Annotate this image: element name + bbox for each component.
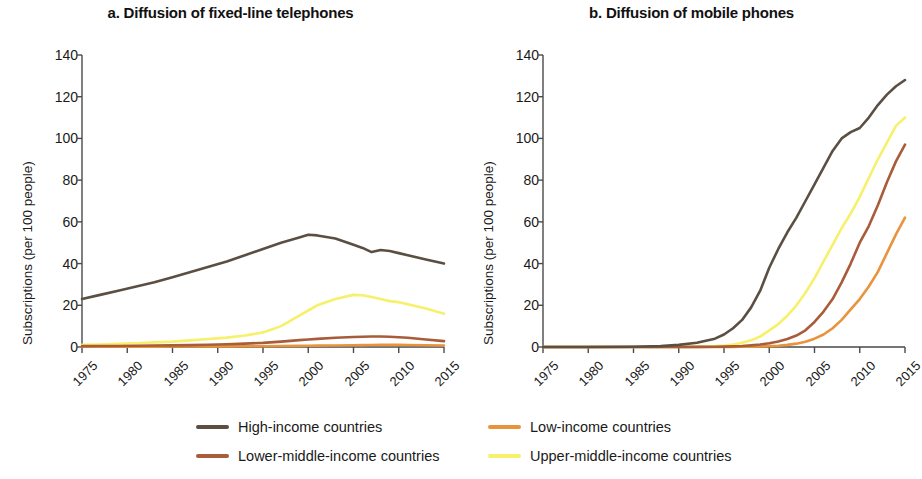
panel-b-y-ticks: 020406080100120140 (497, 55, 539, 347)
x-tick-label: 1980 (107, 358, 146, 397)
panel-a-plot-area (82, 55, 444, 347)
y-tick-label: 60 (38, 214, 78, 230)
x-tick-label: 1985 (152, 358, 191, 397)
legend-label: Lower-middle-income countries (238, 448, 439, 464)
x-tick-label: 1990 (658, 358, 697, 397)
chart-legend: High-income countriesLow-income countrie… (0, 408, 922, 479)
legend-grid: High-income countriesLow-income countrie… (196, 412, 796, 470)
y-tick-label: 80 (38, 172, 78, 188)
panel-a-y-ticks: 020406080100120140 (36, 55, 78, 347)
y-tick-label: 80 (499, 172, 539, 188)
data-line-low-income-countries (543, 218, 905, 347)
panel-b-x-ticks: 197519801985199019952000200520102015 (543, 352, 905, 402)
figure: a. Diffusion of fixed-line telephones Su… (0, 0, 922, 479)
y-tick-label: 140 (499, 47, 539, 63)
legend-color-swatch (488, 454, 521, 458)
x-tick-label: 2000 (749, 358, 788, 397)
y-tick-label: 100 (38, 130, 78, 146)
x-tick-label: 2015 (424, 358, 463, 397)
panel-b-title: b. Diffusion of mobile phones (461, 4, 922, 21)
x-tick-label: 2000 (288, 358, 327, 397)
y-tick-label: 60 (499, 214, 539, 230)
data-line-lower-middle-income-countries (543, 145, 905, 347)
panel-b-svg (543, 55, 905, 347)
x-tick-label: 1985 (613, 358, 652, 397)
legend-item: Upper-middle-income countries (488, 448, 796, 464)
x-tick-label: 1975 (523, 358, 562, 397)
legend-item: Low-income countries (488, 419, 796, 435)
panel-a-svg (82, 55, 444, 347)
legend-color-swatch (196, 454, 229, 458)
x-tick-label: 2010 (378, 358, 417, 397)
legend-label: High-income countries (238, 419, 382, 435)
y-tick-label: 20 (38, 297, 78, 313)
y-tick-label: 120 (499, 89, 539, 105)
y-tick-label: 100 (499, 130, 539, 146)
panel-a-x-ticks: 197519801985199019952000200520102015 (82, 352, 444, 402)
x-tick-label: 1995 (704, 358, 743, 397)
y-tick-label: 120 (38, 89, 78, 105)
x-tick-label: 1995 (243, 358, 282, 397)
legend-label: Low-income countries (530, 419, 671, 435)
x-tick-label: 2005 (794, 358, 833, 397)
y-tick-label: 40 (499, 256, 539, 272)
x-tick-label: 1990 (197, 358, 236, 397)
legend-label: Upper-middle-income countries (530, 448, 731, 464)
x-tick-label: 2010 (839, 358, 878, 397)
axis-lines (543, 55, 905, 347)
panel-a-title: a. Diffusion of fixed-line telephones (0, 4, 461, 21)
legend-color-swatch (196, 425, 229, 429)
chart-panels: a. Diffusion of fixed-line telephones Su… (0, 0, 922, 405)
y-tick-label: 20 (499, 297, 539, 313)
axis-lines (82, 55, 444, 347)
y-tick-label: 140 (38, 47, 78, 63)
y-tick-label: 40 (38, 256, 78, 272)
y-tick-label: 0 (38, 339, 78, 355)
panel-b-plot-area (543, 55, 905, 347)
x-tick-label: 1975 (62, 358, 101, 397)
data-line-high-income-countries (82, 235, 444, 299)
x-tick-label: 2005 (333, 358, 372, 397)
y-tick-label: 0 (499, 339, 539, 355)
legend-item: High-income countries (196, 419, 488, 435)
legend-item: Lower-middle-income countries (196, 448, 488, 464)
x-tick-label: 1980 (568, 358, 607, 397)
data-line-upper-middle-income-countries (543, 118, 905, 347)
x-tick-label: 2015 (885, 358, 922, 397)
panel-mobile-phones: b. Diffusion of mobile phones Subscripti… (461, 0, 922, 405)
legend-color-swatch (488, 425, 521, 429)
panel-fixed-line-telephones: a. Diffusion of fixed-line telephones Su… (0, 0, 461, 405)
